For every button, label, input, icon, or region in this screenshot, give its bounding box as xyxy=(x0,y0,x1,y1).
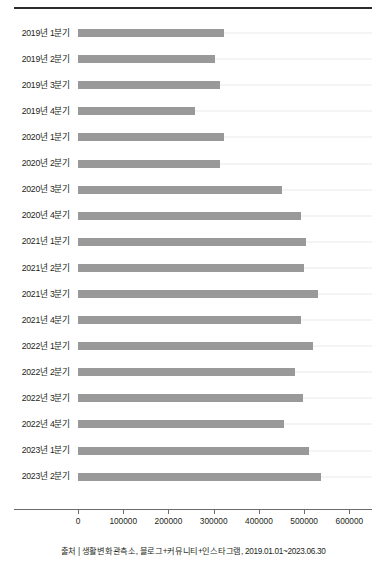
bar-track xyxy=(78,438,372,464)
bar-track xyxy=(78,46,372,72)
x-axis-tick-label: 500000 xyxy=(290,517,318,525)
bar xyxy=(78,29,224,37)
x-axis-tick-label: 300000 xyxy=(200,517,228,525)
x-axis-tick-label: 200000 xyxy=(155,517,183,525)
category-label: 2019년 1분기 xyxy=(0,29,70,38)
bar-track xyxy=(78,464,372,490)
bar-row: 2019년 1분기 xyxy=(0,20,386,46)
bar xyxy=(78,212,301,220)
x-axis-tick-label: 600000 xyxy=(336,517,364,525)
bar xyxy=(78,238,306,246)
bar-track xyxy=(78,411,372,437)
bar-row: 2021년 4분기 xyxy=(0,307,386,333)
bar-track xyxy=(78,150,372,176)
bar-row: 2020년 4분기 xyxy=(0,203,386,229)
bar-row: 2020년 1분기 xyxy=(0,124,386,150)
bar-row: 2022년 2분기 xyxy=(0,359,386,385)
category-label: 2019년 4분기 xyxy=(0,107,70,116)
bar xyxy=(78,160,220,168)
x-axis-tick xyxy=(304,509,305,514)
category-label: 2023년 2분기 xyxy=(0,472,70,481)
bar xyxy=(78,55,215,63)
bar xyxy=(78,316,301,324)
category-label: 2020년 4분기 xyxy=(0,211,70,220)
bar-track xyxy=(78,98,372,124)
bar-track xyxy=(78,359,372,385)
category-label: 2021년 4분기 xyxy=(0,316,70,325)
x-axis-tick xyxy=(168,509,169,514)
x-axis-tick-label: 400000 xyxy=(245,517,273,525)
bar xyxy=(78,394,303,402)
bar-track xyxy=(78,72,372,98)
source-caption: 출처 | 생활변화관측소, 블로그+커뮤니티+인스타그램, 2019.01.01… xyxy=(0,544,386,556)
bar-track xyxy=(78,333,372,359)
category-label: 2023년 1분기 xyxy=(0,446,70,455)
category-label: 2022년 3분기 xyxy=(0,394,70,403)
bar xyxy=(78,342,313,350)
bar-track xyxy=(78,385,372,411)
bar-row: 2022년 1분기 xyxy=(0,333,386,359)
bar-row: 2023년 1분기 xyxy=(0,438,386,464)
x-axis-tick xyxy=(259,509,260,514)
bar-track xyxy=(78,255,372,281)
bar xyxy=(78,368,295,376)
x-axis-tick-label: 100000 xyxy=(109,517,137,525)
plot-area: 2019년 1분기2019년 2분기2019년 3분기2019년 4분기2020… xyxy=(0,20,386,509)
x-axis-tick xyxy=(123,509,124,514)
top-divider-rule xyxy=(14,7,372,9)
bar xyxy=(78,473,321,481)
category-label: 2022년 2분기 xyxy=(0,368,70,377)
bar xyxy=(78,290,318,298)
x-axis: 0100000200000300000400000500000600000 xyxy=(0,509,386,537)
bar-row: 2019년 4분기 xyxy=(0,98,386,124)
bar-row: 2021년 3분기 xyxy=(0,281,386,307)
category-label: 2022년 1분기 xyxy=(0,342,70,351)
bar xyxy=(78,447,309,455)
category-label: 2021년 2분기 xyxy=(0,264,70,273)
bar-track xyxy=(78,203,372,229)
x-axis-line xyxy=(14,509,372,510)
bar xyxy=(78,186,282,194)
x-axis-tick-label: 0 xyxy=(76,517,81,525)
bar-track xyxy=(78,281,372,307)
chart-container: 2019년 1분기2019년 2분기2019년 3분기2019년 4분기2020… xyxy=(0,0,386,570)
category-label: 2020년 3분기 xyxy=(0,185,70,194)
bar-row: 2022년 4분기 xyxy=(0,411,386,437)
bar-row: 2021년 1분기 xyxy=(0,229,386,255)
bar-track xyxy=(78,20,372,46)
bar-row: 2019년 2분기 xyxy=(0,46,386,72)
category-label: 2022년 4분기 xyxy=(0,420,70,429)
bar xyxy=(78,133,224,141)
bar-row: 2021년 2분기 xyxy=(0,255,386,281)
bar-track xyxy=(78,307,372,333)
category-label: 2019년 3분기 xyxy=(0,81,70,90)
bar-row: 2022년 3분기 xyxy=(0,385,386,411)
x-axis-tick xyxy=(78,509,79,514)
x-axis-tick xyxy=(214,509,215,514)
bar-row: 2023년 2분기 xyxy=(0,464,386,490)
category-label: 2019년 2분기 xyxy=(0,55,70,64)
bar xyxy=(78,107,195,115)
category-label: 2021년 3분기 xyxy=(0,290,70,299)
category-label: 2021년 1분기 xyxy=(0,237,70,246)
category-label: 2020년 2분기 xyxy=(0,159,70,168)
bar xyxy=(78,81,220,89)
bar-row: 2020년 3분기 xyxy=(0,177,386,203)
bar-track xyxy=(78,229,372,255)
bar-row: 2020년 2분기 xyxy=(0,150,386,176)
category-label: 2020년 1분기 xyxy=(0,133,70,142)
bar xyxy=(78,420,284,428)
bar-track xyxy=(78,124,372,150)
bar xyxy=(78,264,304,272)
bar-track xyxy=(78,177,372,203)
bar-row: 2019년 3분기 xyxy=(0,72,386,98)
x-axis-tick xyxy=(349,509,350,514)
